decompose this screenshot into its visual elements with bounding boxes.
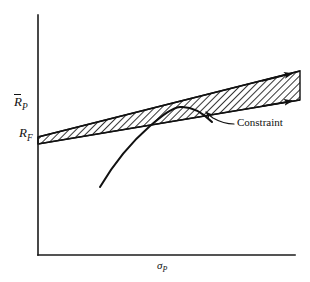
y-axis-label-expected-return: RP: [14, 94, 28, 112]
y-axis-label-rf-symbol: R: [19, 125, 27, 140]
y-axis-label-rf-subscript: F: [27, 133, 33, 143]
x-axis-label-portfolio-risk: σP: [157, 260, 167, 274]
constraint-band: [38, 71, 300, 144]
x-axis-label-sigma-subscript: P: [162, 265, 167, 274]
constraint-annotation-label: Constraint: [237, 117, 283, 128]
y-axis-label-rp-subscript: P: [22, 102, 28, 112]
y-axis-label-rp-symbol: R: [14, 94, 22, 108]
figure-container: RP RF σP Constraint: [0, 0, 310, 282]
figure-canvas: [0, 0, 310, 282]
constraint-band-hatch-fill: [38, 71, 300, 144]
y-axis-label-riskfree-rate: RF: [19, 126, 33, 143]
